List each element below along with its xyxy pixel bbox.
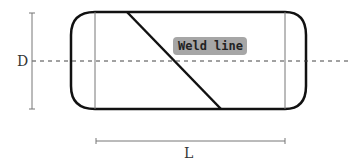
length-label: L xyxy=(184,145,193,160)
weld-line xyxy=(127,12,221,109)
weld-label-text: Weld line xyxy=(178,39,243,53)
vessel-diagram: D L Weld line xyxy=(0,0,360,160)
diameter-label: D xyxy=(17,53,28,69)
